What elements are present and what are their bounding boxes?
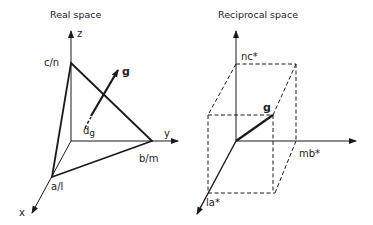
lattice-plane-triangle	[52, 63, 152, 177]
b-m-label: b/m	[139, 153, 158, 164]
reciprocal-space-diagram: Reciprocal space nc* g mb* la*	[197, 9, 356, 214]
c-n-label: c/n	[44, 57, 59, 68]
g-reciprocal-vector	[236, 115, 273, 141]
y-label: y	[164, 128, 170, 139]
real-space-diagram: Real space z c/n g dg y b/m a/l x	[19, 9, 178, 218]
g-vector	[91, 70, 118, 116]
g-label: g	[122, 65, 130, 78]
x-label: x	[19, 207, 25, 218]
nc-star-label: nc*	[241, 51, 258, 62]
real-space-title: Real space	[50, 9, 102, 20]
la-star-label: la*	[206, 197, 220, 208]
reciprocal-space-title: Reciprocal space	[218, 9, 298, 20]
dg-sub: g	[89, 128, 95, 138]
dg-label: dg	[83, 125, 95, 138]
g-reciprocal-label: g	[263, 101, 271, 114]
a-l-label: a/l	[51, 181, 63, 192]
diagram-canvas: Real space z c/n g dg y b/m a/l x Recipr…	[0, 0, 373, 225]
mb-star-label: mb*	[299, 148, 320, 159]
z-label: z	[77, 28, 82, 39]
